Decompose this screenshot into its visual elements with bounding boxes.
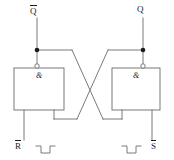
input-label-s-bar-text: S (151, 140, 156, 151)
output-label-q-text: Q (137, 4, 144, 14)
schematic-svg (0, 0, 174, 160)
gate-right-inversion-bubble-icon (141, 64, 145, 68)
output-label-q-bar-text: Q (30, 5, 37, 16)
circuit-diagram: & & Q Q R S (0, 0, 174, 160)
gate-left-symbol: & (36, 72, 42, 80)
wire-cross-right-to-left (77, 50, 108, 119)
output-label-q-bar: Q (30, 5, 37, 16)
input-label-r-bar: R (15, 140, 21, 151)
input-label-s-bar: S (151, 140, 156, 151)
input-label-r-bar-text: R (15, 140, 21, 151)
waveform-rbar (36, 146, 55, 153)
output-label-q: Q (137, 5, 144, 14)
gate-left-inversion-bubble-icon (35, 64, 39, 68)
junction-dot-right (141, 48, 146, 53)
wire-cross-left-to-right (72, 50, 103, 119)
junction-dot-left (35, 48, 40, 53)
waveform-sbar (122, 146, 141, 153)
gate-right-symbol: & (133, 72, 139, 80)
